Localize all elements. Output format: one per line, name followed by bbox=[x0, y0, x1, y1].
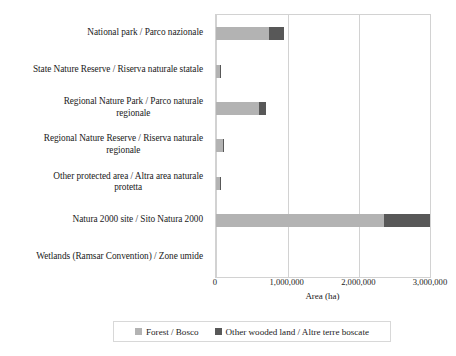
bar-row bbox=[216, 52, 431, 89]
bar-row bbox=[216, 165, 431, 202]
bar-row bbox=[216, 202, 431, 239]
stacked-bar-chart: National park / Parco nazionaleState Nat… bbox=[0, 0, 456, 356]
bar-segment-other-wooded-land[interactable] bbox=[269, 27, 284, 40]
bar-segment-forest[interactable] bbox=[216, 102, 259, 115]
bar-row bbox=[216, 90, 431, 127]
bars-layer bbox=[216, 15, 431, 277]
category-label-line: Other protected area / Altra area natura… bbox=[53, 171, 203, 183]
bar-segment-forest[interactable] bbox=[216, 139, 223, 152]
category-label: Natura 2000 site / Sito Natura 2000 bbox=[0, 201, 209, 238]
bar-stack[interactable] bbox=[216, 27, 284, 40]
category-label-line: Regional Nature Reserve / Riserva natura… bbox=[44, 133, 203, 145]
bar-segment-other-wooded-land[interactable] bbox=[220, 177, 221, 190]
bar-segment-forest[interactable] bbox=[216, 27, 269, 40]
category-label: State Nature Reserve / Riserva naturale … bbox=[0, 51, 209, 88]
x-tick-label: 2,000,000 bbox=[341, 277, 375, 287]
bar-segment-forest[interactable] bbox=[216, 214, 384, 227]
category-label-line: Wetlands (Ramsar Convention) / Zone umid… bbox=[36, 251, 203, 263]
bar-row bbox=[216, 127, 431, 164]
bar-segment-other-wooded-land[interactable] bbox=[259, 102, 266, 115]
legend-label: Forest / Bosco bbox=[146, 327, 199, 337]
category-label-line: State Nature Reserve / Riserva naturale … bbox=[33, 64, 203, 76]
bar-row bbox=[216, 240, 431, 277]
category-label-line: National park / Parco nazionale bbox=[87, 27, 203, 39]
bar-segment-other-wooded-land[interactable] bbox=[384, 214, 429, 227]
category-label-line: regionale bbox=[64, 108, 203, 120]
category-label: Wetlands (Ramsar Convention) / Zone umid… bbox=[0, 239, 209, 276]
category-label-line: regionale bbox=[44, 145, 203, 157]
plot-area bbox=[215, 14, 431, 278]
category-label-line: protetta bbox=[53, 182, 203, 194]
bar-segment-other-wooded-land[interactable] bbox=[223, 139, 224, 152]
legend-label: Other wooded land / Altre terre boscate bbox=[226, 327, 369, 337]
x-tick-label: 3,000,000 bbox=[413, 277, 447, 287]
category-label-line: Natura 2000 site / Sito Natura 2000 bbox=[73, 214, 203, 226]
legend-swatch-icon bbox=[215, 328, 222, 335]
x-axis-title: Area (ha) bbox=[215, 291, 430, 301]
bar-stack[interactable] bbox=[216, 65, 221, 78]
bar-stack[interactable] bbox=[216, 102, 266, 115]
legend-item[interactable]: Other wooded land / Altre terre boscate bbox=[215, 327, 369, 337]
category-label: Other protected area / Altra area natura… bbox=[0, 164, 209, 201]
x-tick-label: 1,000,000 bbox=[269, 277, 303, 287]
bar-stack[interactable] bbox=[216, 177, 221, 190]
category-label: Regional Nature Park / Parco naturalereg… bbox=[0, 89, 209, 126]
category-label-line: Regional Nature Park / Parco naturale bbox=[64, 96, 203, 108]
x-axis-ticks: 01,000,0002,000,0003,000,000 bbox=[215, 277, 430, 291]
bar-stack[interactable] bbox=[216, 139, 224, 152]
bar-segment-other-wooded-land[interactable] bbox=[220, 65, 221, 78]
category-label: Regional Nature Reserve / Riserva natura… bbox=[0, 126, 209, 163]
legend-item[interactable]: Forest / Bosco bbox=[135, 327, 199, 337]
bar-stack[interactable] bbox=[216, 214, 430, 227]
bar-row bbox=[216, 15, 431, 52]
category-label: National park / Parco nazionale bbox=[0, 14, 209, 51]
category-axis: National park / Parco nazionaleState Nat… bbox=[0, 14, 209, 276]
x-tick-label: 0 bbox=[213, 277, 217, 287]
legend-swatch-icon bbox=[135, 328, 142, 335]
chart-legend: Forest / BoscoOther wooded land / Altre … bbox=[113, 321, 391, 342]
